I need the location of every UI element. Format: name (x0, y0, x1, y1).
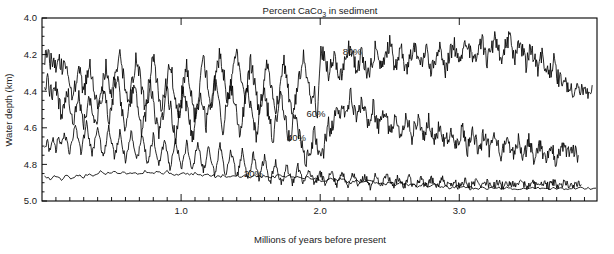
page-title: Percent CaCo3 in sediment (263, 5, 378, 18)
series-annotation-20pct: 20% (244, 168, 264, 179)
title-tail-text: in sediment (326, 5, 378, 16)
series-annotation-60pct: 60% (307, 108, 327, 119)
y-axis-tick-label: 5.0 (24, 195, 37, 206)
y-axis-tick-label: 4.0 (24, 12, 37, 23)
calcium-carbonate-depth-chart: Percent CaCo3 in sediment 4.04.24.44.64.… (0, 0, 614, 254)
y-axis-tick-label: 4.4 (24, 86, 37, 97)
y-axis-tick-label: 4.2 (24, 49, 37, 60)
title-main-text: Percent CaCo (263, 5, 323, 16)
series-annotation-40pct: 40% (287, 132, 307, 143)
x-axis-tick-label: 3.0 (453, 205, 466, 216)
x-axis-tick-label: 2.0 (314, 205, 327, 216)
chart-title-group: Percent CaCo3 in sediment (263, 5, 378, 18)
x-axis-label: Millions of years before present (254, 234, 386, 245)
series-annotation-80pct: 80% (343, 46, 363, 57)
y-axis-tick-label: 4.6 (24, 122, 37, 133)
y-axis-tick-label: 4.8 (24, 159, 37, 170)
plot-area: 4.04.24.44.64.85.01.02.03.080%60%40%20% (24, 12, 597, 216)
y-axis-label: Water depth (km) (3, 73, 14, 146)
x-axis-tick-label: 1.0 (174, 205, 187, 216)
